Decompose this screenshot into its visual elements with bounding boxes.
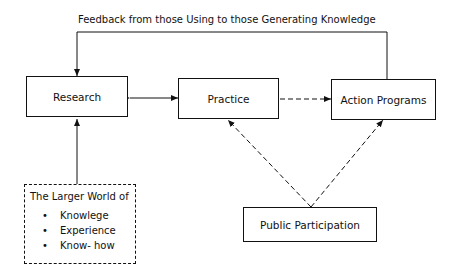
public-participation-node: Public Participation: [243, 207, 377, 242]
larger-world-list: Knowlege Experience Know- how: [42, 208, 130, 253]
action-programs-label: Action Programs: [341, 94, 427, 106]
larger-world-title: The Larger World of: [30, 191, 130, 202]
public-action-arrow: [311, 120, 383, 207]
feedback-arrow: [77, 32, 387, 79]
research-label: Research: [53, 91, 101, 103]
list-item: Know- how: [42, 238, 130, 253]
public-participation-label: Public Participation: [260, 219, 360, 231]
public-practice-arrow: [228, 120, 311, 207]
list-item: Experience: [42, 223, 130, 238]
practice-node: Practice: [178, 78, 279, 119]
larger-world-node: The Larger World of Knowlege Experience …: [24, 184, 136, 264]
feedback-label: Feedback from those Using to those Gener…: [78, 14, 376, 25]
list-item: Knowlege: [42, 208, 130, 223]
action-programs-node: Action Programs: [331, 79, 436, 120]
practice-label: Practice: [208, 93, 250, 105]
research-node: Research: [26, 76, 128, 117]
